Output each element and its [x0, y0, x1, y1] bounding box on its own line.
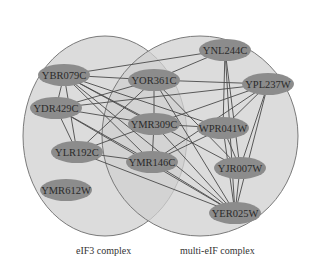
node-ylr192c: YLR192C — [51, 141, 103, 163]
node-label: YNL244C — [203, 45, 247, 56]
node-yor361c: YOR361C — [128, 69, 180, 91]
node-yer025w: YER025W — [209, 202, 261, 224]
node-label: YDR429C — [34, 103, 79, 114]
node-label: YLR192C — [55, 147, 99, 158]
node-label: YBR079C — [42, 70, 86, 81]
node-ybr079c: YBR079C — [38, 64, 90, 86]
node-label: YER025W — [212, 208, 259, 219]
node-yjr007w: YJR007W — [214, 157, 266, 179]
node-ynl244c: YNL244C — [199, 39, 251, 61]
node-label: WPR041W — [199, 123, 248, 134]
node-ymr612w: YMR612W — [40, 179, 92, 201]
node-ymr146c: YMR146C — [126, 151, 178, 173]
node-ydr429c: YDR429C — [30, 97, 82, 119]
node-label: YOR361C — [132, 75, 177, 86]
complex-region-multi-eif — [102, 36, 298, 236]
node-label: YJR007W — [218, 163, 262, 174]
node-ypl237w: YPL237W — [242, 73, 294, 95]
node-label: YMR309C — [131, 119, 178, 130]
complex-label-eif3: eIF3 complex — [76, 245, 131, 256]
node-label: YMR146C — [129, 157, 176, 168]
complex-label-multi-eif: multi-eIF complex — [180, 245, 255, 256]
node-label: YPL237W — [245, 79, 291, 90]
node-ymr309c: YMR309C — [128, 113, 180, 135]
node-wpr041w: WPR041W — [197, 117, 249, 139]
node-label: YMR612W — [41, 185, 91, 196]
interaction-network-diagram: YBR079CYOR361CYNL244CYPL237WYDR429CYMR30… — [0, 0, 316, 272]
